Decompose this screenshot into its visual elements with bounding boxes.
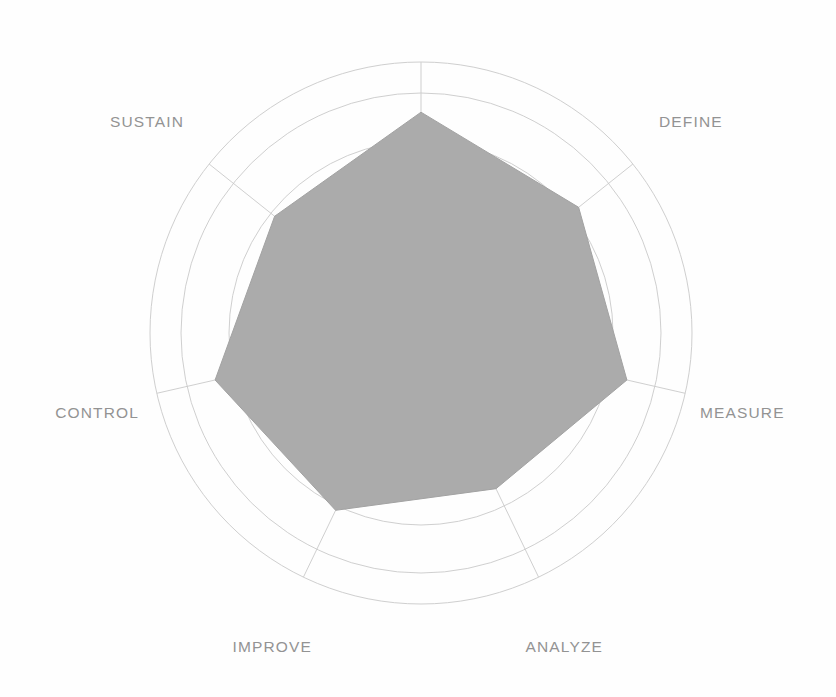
radar-chart-figure: DEFINEMEASUREANALYZEIMPROVECONTROLSUSTAI… <box>0 0 836 697</box>
axis-label-analyze: ANALYZE <box>525 638 603 655</box>
radar-chart-svg: DEFINEMEASUREANALYZEIMPROVECONTROLSUSTAI… <box>0 0 836 697</box>
axis-label-control: CONTROL <box>55 404 139 421</box>
data-series-polygon <box>215 112 627 510</box>
series-polygon-0 <box>215 112 627 510</box>
axis-label-measure: MEASURE <box>700 404 785 421</box>
axis-label-define: DEFINE <box>659 113 723 130</box>
axis-label-sustain: SUSTAIN <box>110 113 184 130</box>
axis-label-improve: IMPROVE <box>232 638 312 655</box>
